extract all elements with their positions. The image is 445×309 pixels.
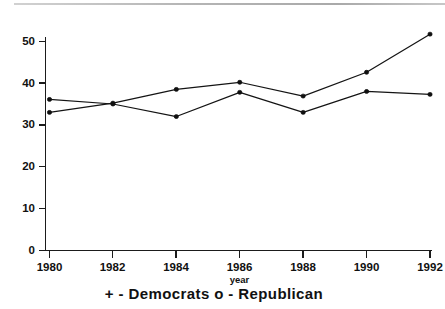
- y-tick-label-50: 50: [22, 35, 35, 47]
- x-axis-title: year: [230, 274, 250, 285]
- data-point-democrats-1984: [174, 87, 178, 91]
- data-point-democrats-1990: [365, 70, 369, 74]
- data-point-democrats-1980: [48, 110, 52, 114]
- x-tick-label-1986: 1986: [227, 261, 253, 273]
- data-point-republican-1984: [174, 115, 178, 119]
- y-tick-label-10: 10: [22, 202, 35, 214]
- x-tick-label-1990: 1990: [354, 261, 380, 273]
- data-point-democrats-1986: [238, 80, 242, 84]
- legend-label: + - Democrats o - Republican: [105, 285, 323, 302]
- x-tick-label-1988: 1988: [290, 261, 316, 273]
- y-tick-label-30: 30: [22, 118, 35, 130]
- y-tick-labels: 50 40 30 20 10 0: [22, 35, 35, 256]
- series-democrats: [48, 32, 433, 114]
- data-point-republican-1986: [238, 90, 242, 94]
- data-point-republican-1980: [48, 98, 52, 102]
- x-tick-label-1984: 1984: [163, 261, 189, 273]
- y-tick-label-20: 20: [22, 160, 35, 172]
- data-point-republican-1992: [428, 92, 432, 96]
- x-tick-labels: 1980 1982 1984 1986 1988 1990 1992: [37, 261, 443, 273]
- data-point-republican-1990: [365, 90, 369, 94]
- line-chart-canvas: 50 40 30 20 10 0 1980 1982 1984 1986 198…: [0, 0, 445, 309]
- x-tick-label-1992: 1992: [417, 261, 443, 273]
- y-tick-label-0: 0: [29, 244, 35, 256]
- series-line-democrats: [50, 34, 431, 112]
- data-point-democrats-1988: [301, 94, 305, 98]
- chart-figure: 50 40 30 20 10 0 1980 1982 1984 1986 198…: [0, 0, 445, 309]
- x-tick-marks: [50, 251, 431, 258]
- x-tick-label-1980: 1980: [37, 261, 63, 273]
- x-tick-label-1982: 1982: [100, 261, 126, 273]
- data-point-republican-1982: [111, 102, 115, 106]
- series-republican: [48, 90, 433, 119]
- axis-group: [46, 37, 433, 251]
- series-layer: [48, 32, 433, 118]
- data-point-democrats-1992: [428, 32, 432, 36]
- y-tick-marks: [39, 41, 46, 250]
- series-line-republican: [50, 91, 431, 116]
- y-tick-label-40: 40: [22, 77, 35, 89]
- data-point-republican-1988: [301, 110, 305, 114]
